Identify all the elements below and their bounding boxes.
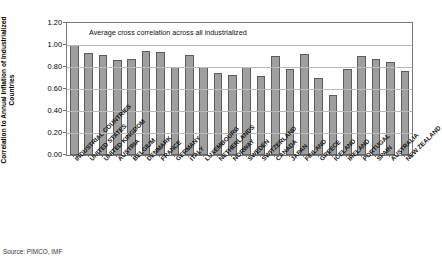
- gridline: [67, 89, 412, 90]
- y-tick-label: 0.60: [48, 84, 62, 93]
- y-tick-label: 0.00: [48, 150, 62, 159]
- y-tick-label: 0.80: [48, 62, 62, 71]
- y-tick-label: 1.20: [48, 18, 62, 27]
- bar: [386, 62, 395, 156]
- gridline: [67, 67, 412, 68]
- y-tick-label: 1.00: [48, 40, 62, 49]
- bar: [70, 45, 79, 155]
- bar: [300, 54, 309, 155]
- chart-annotation: Average cross correlation across all ind…: [89, 28, 247, 37]
- y-axis-ticks: 1.201.000.800.600.400.200.00: [22, 22, 66, 156]
- y-tick-label: 0.40: [48, 106, 62, 115]
- y-axis-title-text: Correlation to Annual Inflation of Indus…: [0, 10, 16, 170]
- x-axis-ticks: INDUSTRIAL COUNTRIESUNITED STATESUNITED …: [66, 157, 413, 257]
- gridline: [67, 45, 412, 46]
- source-note: Source: PIMCO, IMF: [3, 248, 62, 255]
- y-tick-label: 0.20: [48, 128, 62, 137]
- y-axis-title: Correlation to Annual Inflation of Indus…: [0, 10, 22, 170]
